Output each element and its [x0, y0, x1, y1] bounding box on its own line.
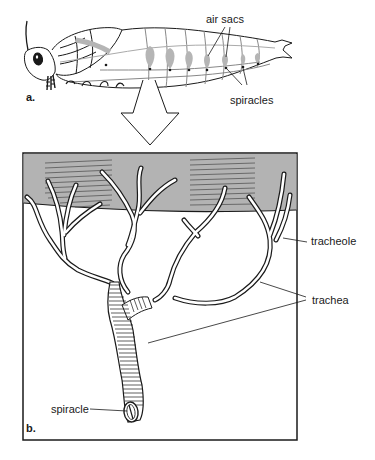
- label-air-sacs: air sacs: [206, 13, 244, 25]
- enlarge-arrow-icon: [121, 80, 179, 145]
- panel-b-label: b.: [26, 422, 36, 434]
- panel-a-label: a.: [26, 91, 35, 103]
- air-sacs: [146, 46, 260, 69]
- insect-illustration: [24, 21, 292, 90]
- tracheal-system-diagram: air sacs spiracles a.: [0, 0, 375, 460]
- label-tracheole: tracheole: [311, 235, 356, 247]
- label-trachea: trachea: [312, 294, 350, 306]
- label-spiracles: spiracles: [230, 94, 274, 106]
- label-spiracle: spiracle: [51, 403, 89, 415]
